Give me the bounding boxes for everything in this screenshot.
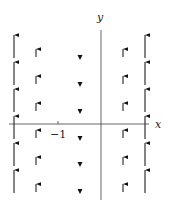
x-tick-label-minus-one: −1 bbox=[50, 128, 66, 141]
x-axis-label: x bbox=[155, 118, 162, 131]
arrow-down-icon bbox=[78, 82, 83, 87]
y-axis-label: y bbox=[96, 11, 104, 24]
arrow-down-icon bbox=[78, 55, 83, 60]
arrow-down-icon bbox=[78, 189, 83, 194]
arrow-down-icon bbox=[78, 109, 83, 114]
arrow-column-x-neg0-5 bbox=[78, 55, 83, 194]
direction-field-plot: y x −1 bbox=[0, 0, 172, 206]
arrow-down-icon bbox=[78, 136, 83, 141]
arrow-down-icon bbox=[78, 162, 83, 167]
